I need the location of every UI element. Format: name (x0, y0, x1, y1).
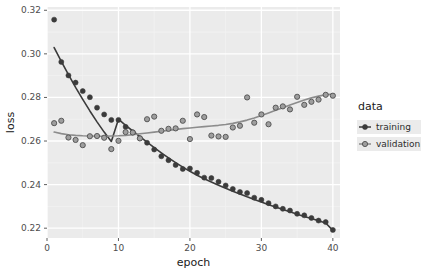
data-point-training (102, 112, 107, 117)
data-point-training (95, 105, 100, 110)
data-point-training (216, 179, 221, 184)
data-point-validation (94, 133, 99, 138)
legend-key-marker (362, 141, 367, 146)
y-axis-title: loss (4, 112, 17, 134)
data-point-validation (209, 133, 214, 138)
data-point-training (273, 204, 278, 209)
data-point-training (316, 218, 321, 223)
x-axis-tick-label: 0 (44, 243, 50, 253)
x-axis-tick-label: 10 (113, 243, 125, 253)
data-point-validation (202, 114, 207, 119)
data-point-training (166, 158, 171, 163)
data-point-validation (130, 130, 135, 135)
data-point-validation (159, 128, 164, 133)
x-axis-tick-label: 20 (184, 243, 196, 253)
legend: datatrainingvalidation (357, 100, 421, 151)
data-point-validation (244, 95, 249, 100)
data-point-validation (323, 92, 328, 97)
data-point-validation (137, 136, 142, 141)
data-point-validation (194, 112, 199, 117)
x-axis-tick-label: 40 (327, 243, 339, 253)
data-point-training (302, 213, 307, 218)
data-point-validation (266, 122, 271, 127)
data-point-training (66, 73, 71, 78)
data-point-training (237, 190, 242, 195)
data-point-validation (237, 123, 242, 128)
data-point-validation (309, 99, 314, 104)
data-point-validation (80, 143, 85, 148)
y-axis-tick-label: 0.22 (21, 223, 41, 233)
data-point-training (87, 95, 92, 100)
data-point-training (280, 206, 285, 211)
legend-key-marker (363, 125, 368, 130)
data-point-training (330, 227, 335, 232)
data-point-validation (316, 97, 321, 102)
data-point-training (173, 162, 178, 167)
data-point-training (230, 186, 235, 191)
data-point-validation (87, 134, 92, 139)
data-point-validation (173, 126, 178, 131)
data-point-training (187, 166, 192, 171)
data-point-training (259, 197, 264, 202)
data-point-training (209, 176, 214, 181)
data-point-training (245, 191, 250, 196)
y-axis-tick-label: 0.30 (21, 49, 41, 59)
x-axis-title: epoch (177, 256, 211, 269)
legend-item-validation[interactable]: validation (357, 137, 421, 151)
data-point-validation (252, 120, 257, 125)
data-point-training (116, 117, 121, 122)
data-point-validation (116, 138, 121, 143)
data-point-training (287, 208, 292, 213)
data-point-training (323, 220, 328, 225)
x-axis-tick-label: 30 (256, 243, 268, 253)
data-point-validation (180, 118, 185, 123)
data-point-validation (230, 125, 235, 130)
data-point-validation (223, 134, 228, 139)
data-point-training (80, 89, 85, 94)
data-point-training (59, 59, 64, 64)
legend-item-label: validation (376, 139, 420, 149)
data-point-training (145, 140, 150, 145)
data-point-validation (330, 93, 335, 98)
legend-item-training[interactable]: training (357, 120, 421, 134)
data-point-validation (123, 129, 128, 134)
data-point-validation (73, 137, 78, 142)
data-point-validation (52, 121, 57, 126)
data-point-training (195, 170, 200, 175)
data-point-validation (102, 135, 107, 140)
data-point-training (266, 201, 271, 206)
y-axis-tick-label: 0.32 (21, 5, 41, 15)
data-point-validation (273, 105, 278, 110)
data-point-training (223, 183, 228, 188)
legend-item-label: training (376, 122, 411, 132)
data-point-validation (302, 102, 307, 107)
data-point-training (309, 215, 314, 220)
data-point-training (202, 175, 207, 180)
data-point-validation (295, 94, 300, 99)
data-point-training (295, 211, 300, 216)
loss-vs-epoch-chart: 0.220.240.260.280.300.32010203040epochlo… (0, 0, 424, 276)
data-point-validation (59, 118, 64, 123)
data-point-validation (166, 126, 171, 131)
data-point-training (152, 147, 157, 152)
y-axis-tick-label: 0.24 (21, 180, 41, 190)
y-axis-tick-label: 0.28 (21, 92, 41, 102)
legend-title: data (358, 100, 383, 113)
data-point-training (109, 117, 114, 122)
data-point-validation (109, 146, 114, 151)
data-point-training (52, 17, 57, 22)
data-point-validation (259, 112, 264, 117)
data-point-validation (216, 134, 221, 139)
data-point-training (252, 195, 257, 200)
data-point-validation (280, 104, 285, 109)
data-point-validation (287, 107, 292, 112)
data-point-validation (144, 117, 149, 122)
data-point-training (73, 80, 78, 85)
data-point-training (159, 154, 164, 159)
data-point-training (123, 124, 128, 129)
data-point-validation (66, 135, 71, 140)
chart-container: 0.220.240.260.280.300.32010203040epochlo… (0, 0, 424, 276)
y-axis-tick-label: 0.26 (21, 136, 41, 146)
data-point-validation (152, 114, 157, 119)
data-point-training (180, 166, 185, 171)
